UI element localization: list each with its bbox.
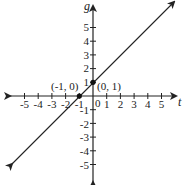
svg-text:3: 3 (84, 49, 90, 61)
svg-text:-2: -2 (80, 118, 89, 130)
svg-text:-2: -2 (61, 98, 70, 110)
svg-text:-1: -1 (80, 104, 89, 116)
svg-text:-3: -3 (80, 131, 90, 143)
svg-text:3: 3 (131, 98, 137, 110)
point-neg1-0 (77, 93, 82, 98)
origin-label: 0 (95, 97, 101, 109)
x-axis-label: t (178, 95, 182, 109)
svg-text:-4: -4 (80, 145, 90, 157)
svg-text:-5: -5 (20, 98, 30, 110)
svg-text:-5: -5 (80, 159, 90, 171)
point-0-1 (90, 80, 95, 85)
svg-text:2: 2 (118, 98, 124, 110)
y-axis-label: g (84, 0, 90, 13)
svg-text:1: 1 (104, 98, 110, 110)
svg-text:-4: -4 (34, 98, 44, 110)
svg-text:-3: -3 (47, 98, 57, 110)
point-label-0-1: (0, 1) (97, 80, 121, 93)
svg-text:2: 2 (84, 62, 90, 74)
svg-text:1: 1 (84, 76, 90, 88)
svg-text:5: 5 (84, 21, 90, 33)
point-label-neg1-0: (-1, 0) (51, 80, 79, 93)
x-tick-labels: -5 -4 -3 -2 -1 1 2 3 4 5 (20, 98, 165, 110)
svg-text:5: 5 (159, 98, 165, 110)
svg-text:4: 4 (84, 35, 90, 47)
svg-text:4: 4 (145, 98, 151, 110)
graph: -5 -4 -3 -2 -1 1 2 3 4 5 5 4 3 2 1 -1 -2… (0, 0, 186, 185)
